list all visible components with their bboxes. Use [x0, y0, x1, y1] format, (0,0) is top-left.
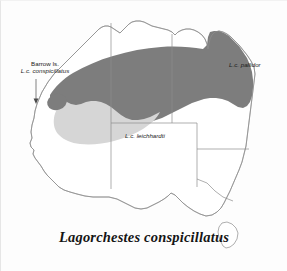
distribution-map-figure: Barrow Is. L.c. conspicillatus L.c. pall… — [0, 0, 287, 271]
label-barrow-line2: L.c. conspicillatus — [13, 67, 77, 74]
label-leichhardti: L.c. leichhardti — [125, 132, 165, 139]
label-pallidor-text: L.c. pallidor — [229, 61, 261, 68]
label-barrow-line1: Barrow Is. — [13, 60, 77, 67]
label-pallidor: L.c. pallidor — [229, 61, 261, 68]
label-leichhardti-text: L.c. leichhardti — [125, 132, 165, 139]
figure-caption-species-name: Lagorchestes conspicillatus — [1, 229, 287, 246]
label-barrow-island: Barrow Is. L.c. conspicillatus — [13, 60, 77, 74]
